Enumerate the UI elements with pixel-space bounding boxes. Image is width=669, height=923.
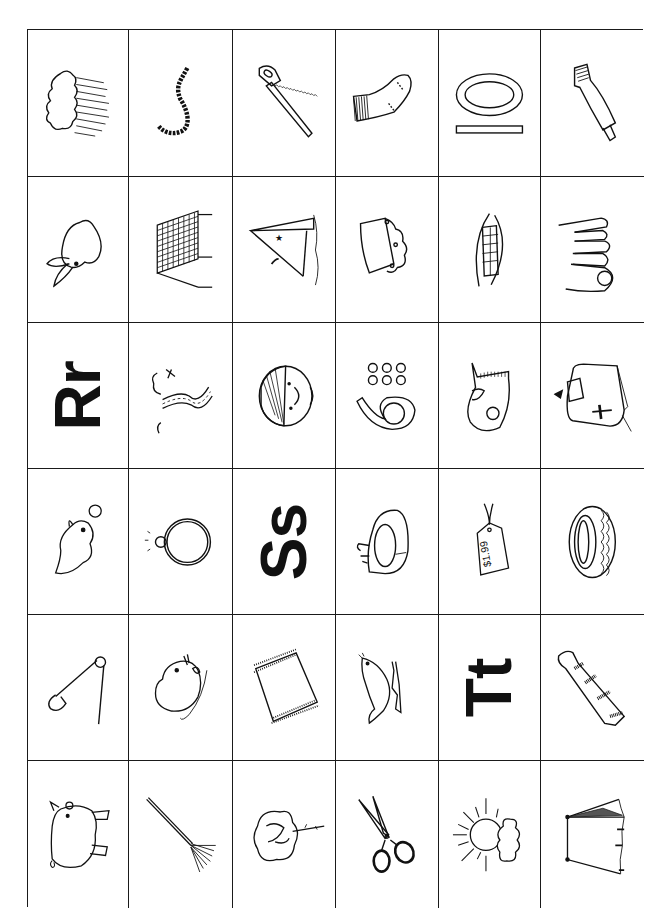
sandwich-icon <box>343 192 431 308</box>
cell-rake <box>129 761 233 908</box>
letter-rr: Rr <box>41 361 115 430</box>
ring-icon <box>136 484 225 600</box>
toes-icon <box>548 192 637 308</box>
rabbit-icon <box>35 192 121 308</box>
cell-sad-face <box>233 323 336 469</box>
cell-rope <box>129 30 233 177</box>
svg-text:★: ★ <box>275 233 283 243</box>
cell-six <box>336 323 439 469</box>
cell-scissors <box>336 761 439 908</box>
cell-rat <box>129 615 233 761</box>
cell-soap <box>439 30 541 177</box>
sun-icon <box>446 776 533 894</box>
tape-dispenser-icon <box>446 338 533 454</box>
cell-tie <box>541 615 644 761</box>
river-icon <box>136 338 225 454</box>
worksheet-grid: ★ Rr <box>27 29 643 907</box>
scissors-icon <box>343 776 431 894</box>
toaster-icon <box>548 338 637 454</box>
cell-sail: ★ <box>233 177 336 323</box>
cell-sun <box>439 761 541 908</box>
cell-sandwich <box>336 177 439 323</box>
rope-icon <box>136 45 225 162</box>
rat-icon <box>136 630 225 746</box>
cell-seal-pup <box>28 469 129 615</box>
cell-safety-pin <box>28 615 129 761</box>
soap-icon <box>446 45 533 162</box>
seal-pup-icon <box>35 484 121 600</box>
sailboat-icon: ★ <box>240 192 328 308</box>
cell-toaster <box>541 323 644 469</box>
letter-ss: Ss <box>247 503 321 579</box>
cell-teeth <box>439 177 541 323</box>
pig-icon <box>35 776 121 894</box>
cell-tire <box>541 469 644 615</box>
rain-cloud-icon <box>35 45 121 162</box>
cell-letter-t: Tt <box>439 615 541 761</box>
cell-rack <box>129 177 233 323</box>
cell-river <box>129 323 233 469</box>
cell-ring <box>129 469 233 615</box>
sock-icon <box>343 45 431 162</box>
cell-rain-cloud <box>28 30 129 177</box>
teeth-icon <box>446 192 533 308</box>
rake-icon <box>136 776 225 894</box>
rug-icon <box>240 630 328 746</box>
cell-seal <box>336 615 439 761</box>
cell-rug <box>233 615 336 761</box>
safety-pin-icon <box>35 630 121 746</box>
necktie-icon <box>548 630 637 746</box>
cell-letter-s: Ss <box>233 469 336 615</box>
toothpaste-icon <box>548 45 637 162</box>
rack-icon <box>136 192 225 308</box>
cell-toes <box>541 177 644 323</box>
tent-icon <box>548 776 637 894</box>
cell-tape <box>439 323 541 469</box>
letter-tt: Tt <box>453 658 527 716</box>
cell-tent <box>541 761 644 908</box>
cell-toothpaste <box>541 30 644 177</box>
cell-rose <box>233 761 336 908</box>
tire-icon <box>548 484 637 600</box>
cell-letter-r: Rr <box>28 323 129 469</box>
rose-icon <box>240 776 328 894</box>
cell-tag: $1.99 <box>439 469 541 615</box>
cell-pig <box>28 761 129 908</box>
cell-sock <box>336 30 439 177</box>
seal-icon <box>343 630 431 746</box>
price-tag-icon: $1.99 <box>446 484 533 600</box>
cell-sink <box>336 469 439 615</box>
cell-rabbit <box>28 177 129 323</box>
saw-icon <box>240 45 328 162</box>
sad-face-icon <box>240 338 328 454</box>
cell-saw <box>233 30 336 177</box>
number-six-icon <box>343 338 431 454</box>
sink-icon <box>343 484 431 600</box>
